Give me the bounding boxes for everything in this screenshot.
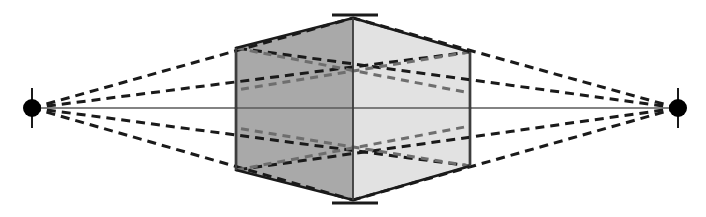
perspective-diagram bbox=[0, 0, 706, 217]
left-vanishing-point-dot bbox=[23, 99, 41, 117]
diagram-canvas bbox=[0, 0, 706, 217]
right-vanishing-point-dot bbox=[669, 99, 687, 117]
